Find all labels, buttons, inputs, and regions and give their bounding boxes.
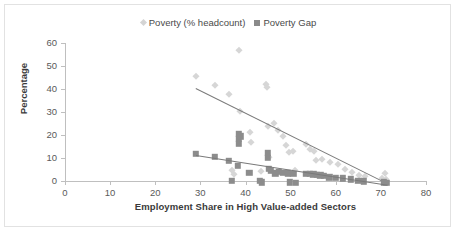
chart-container: Poverty (% headcount) Poverty Gap 010203… — [4, 4, 451, 227]
y-axis-title: Percentage — [18, 49, 29, 129]
y-tick — [61, 89, 65, 90]
x-tick-label: 30 — [185, 187, 215, 198]
data-point-diamond — [334, 161, 340, 167]
data-point-diamond — [246, 129, 252, 135]
x-tick-label: 60 — [321, 187, 351, 198]
x-tick-label: 40 — [231, 187, 261, 198]
y-tick — [61, 66, 65, 67]
x-tick-label: 50 — [276, 187, 306, 198]
x-tick-label: 10 — [95, 187, 125, 198]
x-tick — [155, 181, 156, 185]
data-point-diamond — [342, 166, 348, 172]
x-tick-label: 20 — [140, 187, 170, 198]
data-point-diamond — [226, 90, 232, 96]
data-point-diamond — [258, 168, 264, 174]
plot-area: 0102030405060 01020304050607080 Percenta… — [5, 5, 452, 228]
data-point-square — [259, 179, 265, 185]
x-tick-label: 0 — [50, 187, 80, 198]
x-tick — [246, 181, 247, 185]
data-point-diamond — [327, 158, 333, 164]
x-tick-label: 80 — [411, 187, 441, 198]
data-point-diamond — [193, 73, 199, 79]
y-tick-label: 20 — [5, 129, 57, 140]
y-tick — [61, 158, 65, 159]
data-point-diamond — [248, 139, 254, 145]
y-tick — [61, 135, 65, 136]
data-point-square — [236, 141, 242, 147]
data-point-diamond — [349, 169, 355, 175]
y-tick-label: 10 — [5, 152, 57, 163]
data-point-diamond — [264, 83, 270, 89]
data-point-diamond — [212, 82, 218, 88]
x-tick — [110, 181, 111, 185]
data-point-square — [229, 178, 235, 184]
data-point-square — [235, 163, 241, 169]
y-tick — [61, 112, 65, 113]
data-point-diamond — [319, 156, 325, 162]
x-tick — [426, 181, 427, 185]
data-point-diamond — [236, 47, 242, 53]
x-tick-label: 70 — [366, 187, 396, 198]
data-point-diamond — [290, 148, 296, 154]
data-point-diamond — [231, 170, 237, 176]
x-tick — [65, 181, 66, 185]
y-tick-label: 60 — [5, 37, 57, 48]
x-tick — [336, 181, 337, 185]
y-tick-label: 40 — [5, 83, 57, 94]
x-tick — [200, 181, 201, 185]
data-point-square — [238, 133, 244, 139]
y-tick-label: 0 — [5, 175, 57, 186]
y-tick — [61, 43, 65, 44]
y-tick-label: 50 — [5, 60, 57, 71]
data-point-square — [293, 180, 299, 186]
y-tick-label: 30 — [5, 106, 57, 117]
x-axis-title: Employment Share in High Value-added Sec… — [65, 201, 426, 212]
data-point-square — [265, 154, 271, 160]
trendline — [195, 88, 380, 181]
data-point-square — [246, 170, 252, 176]
y-axis-line — [65, 43, 66, 182]
